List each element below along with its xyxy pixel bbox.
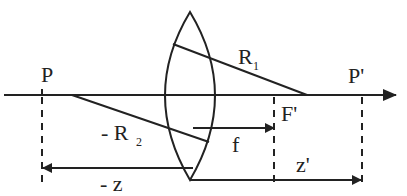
label-image-point: P': [348, 63, 364, 88]
label-image-distance: z': [296, 152, 310, 177]
lens-diagram: P P' F' R 1 - R 2 f - z z': [0, 0, 407, 196]
label-object-point: P: [41, 62, 53, 87]
label-radius-1: R: [238, 44, 253, 69]
label-radius-2-sub: 2: [136, 135, 142, 149]
label-radius-2: - R: [101, 120, 129, 145]
label-focal-point: F': [281, 101, 297, 126]
label-object-distance: - z: [100, 171, 123, 196]
label-radius-1-sub: 1: [253, 59, 259, 73]
label-focal-length: f: [232, 132, 240, 157]
